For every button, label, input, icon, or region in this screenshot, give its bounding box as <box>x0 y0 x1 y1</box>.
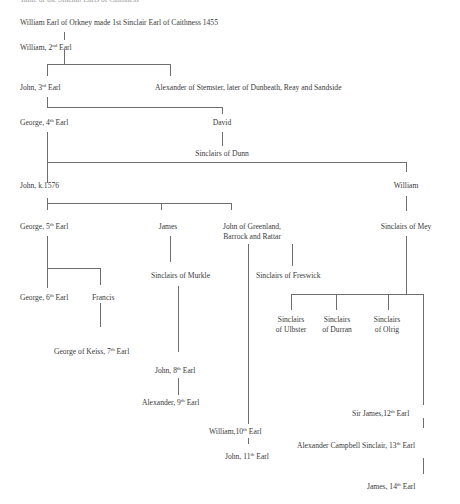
node-william-2nd-earl: William, 2nd Earl <box>20 43 72 52</box>
node-john-3rd-earl: John, 3rd Earl <box>20 83 61 92</box>
node-william-1st-earl: William Earl of Orkney made 1st Sinclair… <box>20 18 218 27</box>
node-william-10th-earl: William,10th Earl <box>209 427 262 436</box>
ulbster-line2: of Ulbster <box>276 325 307 335</box>
node-george-of-keiss-7th-earl: George of Keiss, 7th Earl <box>54 347 129 356</box>
node-david: David <box>213 118 232 127</box>
durran-line2: of Durran <box>322 325 352 335</box>
node-james: James <box>159 222 178 231</box>
node-alexander-of-stemster: Alexander of Stemster, later of Dunbeath… <box>155 83 342 92</box>
node-james-14th-earl: James, 14th Earl <box>367 482 415 491</box>
olrig-line2: of Olrig <box>374 325 401 335</box>
node-john-11th-earl: John, 11th Earl <box>225 452 269 461</box>
john-of-greenland-line1: John of Greenland, <box>223 222 281 232</box>
family-tree-diagram: Table of the Sinclair Earls of Caithness <box>0 0 460 504</box>
node-sinclairs-of-murkle: Sinclairs of Murkle <box>151 271 210 280</box>
node-sinclairs-of-dunn: Sinclairs of Dunn <box>195 149 249 158</box>
node-george-6th-earl: George, 6th Earl <box>20 293 68 302</box>
node-john-k1576: John, k.1576 <box>20 181 59 190</box>
node-sinclairs-of-durran: Sinclairs of Durran <box>322 315 352 334</box>
durran-line1: Sinclairs <box>322 315 352 325</box>
john-of-greenland-line2: Barrock and Rattar <box>223 232 281 242</box>
node-sinclairs-of-ulbster: Sinclairs of Ulbster <box>276 315 307 334</box>
node-sinclairs-of-mey: Sinclairs of Mey <box>381 222 432 231</box>
node-alexander-9th-earl: Alexander, 9th Earl <box>142 398 199 407</box>
node-george-4th-earl: George, 4th Earl <box>20 118 68 127</box>
node-francis: Francis <box>92 293 114 302</box>
ulbster-line1: Sinclairs <box>276 315 307 325</box>
node-john-8th-earl: John, 8th Earl <box>155 366 195 375</box>
node-william-of-mey: William <box>394 181 419 190</box>
node-sir-james-12th-earl: Sir James,12th Earl <box>352 409 409 418</box>
node-alexander-campbell-sinclair-13th-earl: Alexander Campbell Sinclair, 13th Earl <box>297 441 415 450</box>
node-john-of-greenland: John of Greenland, Barrock and Rattar <box>223 222 281 241</box>
node-sinclairs-of-olrig: Sinclairs of Olrig <box>374 315 401 334</box>
olrig-line1: Sinclairs <box>374 315 401 325</box>
node-sinclairs-of-freswick: Sinclairs of Freswick <box>256 271 321 280</box>
node-george-5th-earl: George, 5th Earl <box>20 222 68 231</box>
